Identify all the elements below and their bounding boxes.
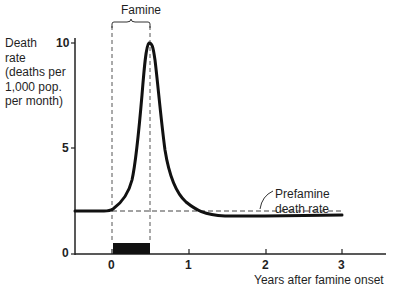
famine-label: Famine [121,3,161,18]
y-tick-label-10: 10 [56,36,69,50]
y-tick-label-5: 5 [62,141,69,155]
y-axis-label: Death rate (deaths per 1,000 pop. per mo… [5,36,95,109]
prefamine-label: Prefamine death rate [275,187,330,217]
x-tick-label-2: 2 [262,258,269,272]
x-tick-label-0: 0 [108,258,115,272]
x-tick-label-3: 3 [338,258,345,272]
x-tick-label-1: 1 [185,258,192,272]
y-tick-label-0: 0 [62,246,69,260]
x-axis-label: Years after famine onset [254,273,384,288]
prefamine-callout [260,191,273,209]
famine-period-bar [113,243,150,254]
famine-bracket [112,19,150,28]
